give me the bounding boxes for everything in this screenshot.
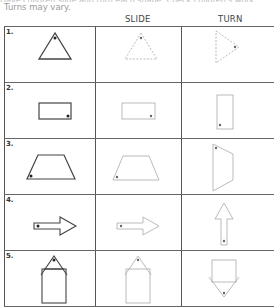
table-row: 5.	[4, 250, 274, 307]
triangle-shape	[4, 27, 95, 82]
shape-table: 1. 2. 3.	[4, 26, 274, 307]
turns-note: Turns may vary.	[4, 2, 71, 12]
arrow-shape	[4, 195, 95, 250]
house-turn	[181, 251, 271, 306]
table-row: 3.	[4, 138, 274, 194]
rectangle-turn	[181, 83, 271, 138]
arrow-slide	[95, 195, 181, 250]
rectangle-slide	[95, 83, 181, 138]
house-shape	[4, 251, 95, 306]
table-row: 2.	[4, 82, 274, 138]
table-row: 1.	[4, 26, 274, 82]
column-header-slide: SLIDE	[125, 14, 151, 24]
trapezoid-slide	[95, 139, 181, 194]
rectangle-shape	[4, 83, 95, 138]
trapezoid-turn	[181, 139, 271, 194]
arrow-turn	[181, 195, 271, 250]
house-slide	[95, 251, 181, 306]
table-row: 4.	[4, 194, 274, 250]
triangle-slide	[95, 27, 181, 82]
trapezoid-shape	[4, 139, 95, 194]
triangle-turn	[181, 27, 271, 82]
column-header-turn: TURN	[218, 14, 242, 24]
